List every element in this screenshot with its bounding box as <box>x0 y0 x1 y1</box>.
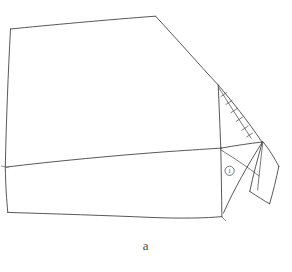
panel-crease-line <box>5 148 221 167</box>
panel-right-edge <box>221 148 222 217</box>
panel-bottom-edge <box>8 212 222 218</box>
gusset-left-edge <box>218 85 221 148</box>
side-flap <box>250 142 279 204</box>
callout-number: 1 <box>228 168 231 174</box>
figure-root: 1 a <box>0 0 292 272</box>
sketch-drawing-canvas: 1 <box>0 0 292 272</box>
hatch-tick-4 <box>236 117 242 121</box>
fan-fold-b <box>221 150 259 176</box>
flap-left-edge <box>250 142 263 191</box>
fan-fold-a <box>224 142 263 213</box>
flap-top-edge <box>263 142 279 167</box>
bottom-right-tail <box>222 217 226 221</box>
panel-left-edge <box>5 29 10 212</box>
main-panel <box>1 16 221 218</box>
circled-callout-1: 1 <box>225 166 234 175</box>
crease-to-right-node <box>221 142 262 148</box>
hatch-tick-5 <box>242 126 248 130</box>
gusset-right-edge <box>218 85 262 142</box>
panel-upper-right-slant <box>156 16 219 85</box>
gusset-triangle <box>218 85 262 148</box>
flap-bottom-edge <box>250 191 270 203</box>
figure-caption: a <box>0 238 292 254</box>
panel-top-edge <box>11 16 156 29</box>
flap-right-edge <box>270 166 279 203</box>
lower-fan <box>221 142 263 221</box>
